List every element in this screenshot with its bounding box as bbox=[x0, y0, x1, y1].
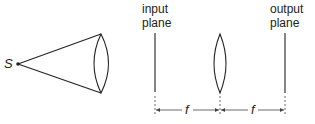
focal-length-label-2: f bbox=[251, 102, 256, 117]
input-plane-label-1: input bbox=[142, 2, 169, 16]
optics-diagram: S input plane output plane f f bbox=[0, 0, 315, 124]
output-plane-label-2: plane bbox=[270, 16, 300, 30]
input-plane-label-2: plane bbox=[142, 16, 172, 30]
output-plane-label-1: output bbox=[270, 2, 304, 16]
ray-cone bbox=[18, 34, 101, 93]
output-plane: output plane bbox=[270, 2, 304, 114]
point-source: S bbox=[4, 56, 20, 71]
focal-length-label-1: f bbox=[185, 102, 190, 117]
focal-dimension-1: f bbox=[156, 102, 219, 117]
input-plane: input plane bbox=[142, 2, 172, 114]
source-label: S bbox=[4, 56, 13, 71]
transform-lens bbox=[214, 34, 226, 114]
focal-dimension-2: f bbox=[221, 102, 284, 117]
collimating-lens bbox=[94, 34, 109, 93]
